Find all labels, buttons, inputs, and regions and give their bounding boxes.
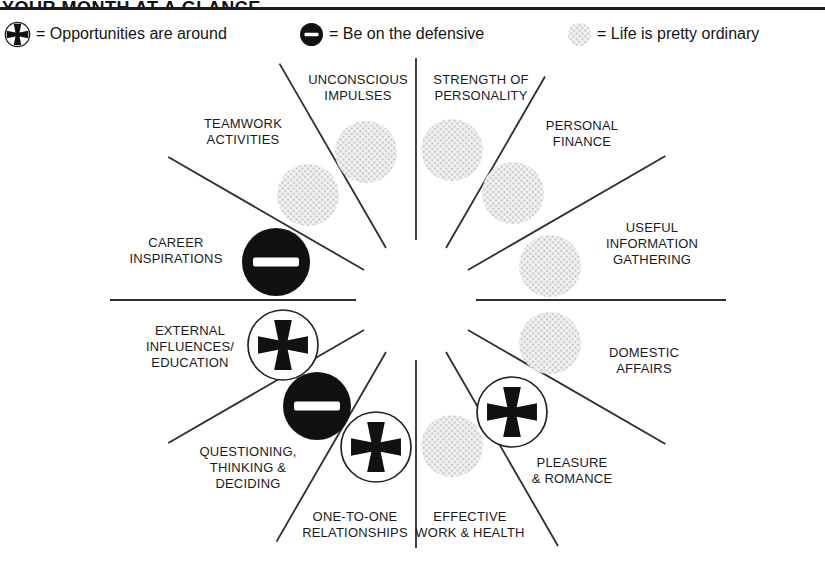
sector-domestic-affairs: DOMESTICAFFAIRS [519, 312, 679, 376]
ordinary-circle-icon [421, 119, 483, 181]
ordinary-circle-icon [421, 415, 483, 477]
ordinary-circle-icon [277, 164, 339, 226]
sector-unconscious-impulses: UNCONSCIOUSIMPULSES [308, 72, 408, 184]
plus-circle-icon [477, 377, 547, 447]
sector-label: DOMESTICAFFAIRS [609, 345, 679, 376]
sector-label: USEFULINFORMATIONGATHERING [606, 220, 698, 267]
ordinary-circle-icon [519, 235, 581, 297]
plus-circle-icon [341, 412, 411, 482]
sector-career-inspirations: CAREERINSPIRATIONS [129, 228, 310, 296]
minus-circle-icon [242, 228, 310, 296]
ordinary-circle-icon [335, 121, 397, 183]
sector-useful-information-gathering: USEFULINFORMATIONGATHERING [519, 220, 698, 298]
sector-label: QUESTIONING,THINKING &DECIDING [199, 444, 296, 491]
plus-circle-icon [248, 310, 318, 380]
ordinary-circle-icon [482, 162, 544, 224]
scanned-page: YOUR MONTH AT A GLANCE = Opportunities a… [0, 0, 825, 561]
sector-label: STRENGTH OFPERSONALITY [433, 72, 528, 103]
sector-pleasure-romance: PLEASURE& ROMANCE [477, 377, 612, 486]
sector-label: EFFECTIVEWORK & HEALTH [415, 509, 524, 540]
sector-label: PERSONALFINANCE [546, 118, 618, 149]
sector-label: CAREERINSPIRATIONS [129, 235, 222, 266]
sector-label: UNCONSCIOUSIMPULSES [308, 72, 408, 103]
sector-personal-finance: PERSONALFINANCE [482, 118, 618, 225]
sector-label: ONE-TO-ONERELATIONSHIPS [302, 509, 408, 540]
month-wheel-diagram: STRENGTH OFPERSONALITYPERSONALFINANCEUSE… [0, 0, 825, 561]
minus-circle-icon [283, 372, 351, 440]
ordinary-circle-icon [519, 312, 581, 374]
sector-label: PLEASURE& ROMANCE [532, 455, 613, 486]
sector-label: TEAMWORKACTIVITIES [204, 116, 282, 147]
sector-external-influences-education: EXTERNALINFLUENCES/EDUCATION [146, 310, 318, 380]
sector-questioning-thinking-deciding: QUESTIONING,THINKING &DECIDING [199, 372, 351, 491]
sector-label: EXTERNALINFLUENCES/EDUCATION [146, 323, 234, 370]
